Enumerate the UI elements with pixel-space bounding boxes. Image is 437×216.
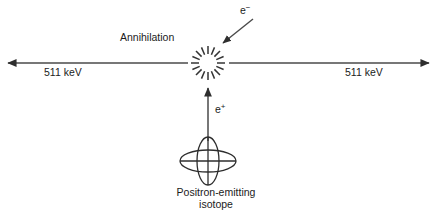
- annihilation-starburst-icon: [191, 46, 225, 80]
- isotope-caption-line2: isotope: [199, 198, 233, 210]
- isotope-caption: Positron-emittingisotope: [151, 186, 281, 211]
- gamma-left-energy-label: 511 keV: [44, 66, 82, 78]
- electron-path-arrow: [223, 19, 253, 43]
- positron-label: e+: [215, 103, 226, 115]
- gamma-right-energy-label: 511 keV: [345, 66, 383, 78]
- isotope-symbol-icon: [180, 137, 236, 185]
- positron-charge-superscript: +: [221, 102, 226, 111]
- electron-arrow: [223, 19, 253, 43]
- positron-annihilation-diagram: Annihilation 511 keV 511 keV e− e+ Posit…: [0, 0, 437, 216]
- annihilation-label: Annihilation: [120, 31, 174, 43]
- electron-charge-superscript: −: [246, 3, 251, 12]
- electron-label: e−: [240, 4, 251, 16]
- isotope-caption-line1: Positron-emitting: [177, 186, 256, 198]
